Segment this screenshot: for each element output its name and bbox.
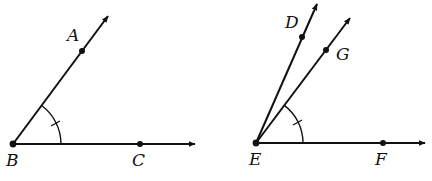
point-d bbox=[299, 34, 305, 40]
angle-arc-abc bbox=[42, 106, 61, 145]
label-e: E bbox=[248, 149, 262, 169]
label-f: F bbox=[374, 149, 388, 169]
label-g: G bbox=[336, 44, 350, 64]
figure-angle-def: D G E F bbox=[248, 4, 425, 169]
label-b: B bbox=[5, 150, 19, 170]
label-a: A bbox=[65, 25, 79, 45]
point-e bbox=[253, 140, 260, 147]
point-g bbox=[323, 47, 329, 53]
point-a bbox=[79, 48, 85, 54]
label-d: D bbox=[284, 12, 299, 32]
ray-ba bbox=[13, 16, 108, 144]
point-f bbox=[380, 140, 386, 146]
point-b bbox=[10, 141, 17, 148]
figure-angle-abc: A B C bbox=[5, 16, 195, 170]
point-c bbox=[137, 141, 143, 147]
geometry-diagram: A B C D G E F bbox=[0, 0, 432, 181]
label-c: C bbox=[132, 150, 145, 170]
